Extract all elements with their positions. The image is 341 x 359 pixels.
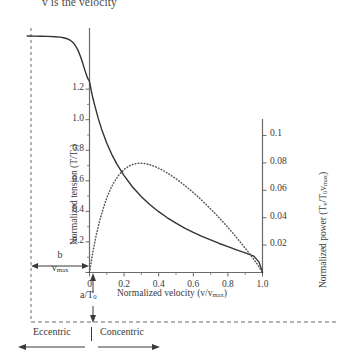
left-tick-label: 1.2 (62, 82, 84, 92)
x-tick-label: 0.8 (216, 279, 240, 289)
b-over-vmax-numerator: b (51, 249, 69, 260)
force-velocity-power-figure: v is the velocity (0, 0, 341, 359)
caption-top-text: v is the velocity (42, 0, 117, 8)
right-tick-label: 0.02 (270, 238, 287, 248)
left-y-axis-label: Normalized tension (T/T0) (69, 144, 79, 245)
concentric-label: Concentric (100, 326, 144, 337)
a-over-t0-label: a/T0 (80, 289, 97, 300)
right-tick-label: 0.06 (270, 183, 287, 193)
b-over-vmax-denominator: vmax (45, 262, 75, 273)
origin-down-arrow (90, 306, 96, 323)
x-tick-label: 0.4 (147, 279, 171, 289)
x-axis-label: Normalized velocity (v/vmax) (117, 288, 227, 298)
x-tick-label: 1.0 (251, 279, 275, 289)
right-tick-label: 0.04 (270, 211, 287, 221)
eccentric-arrow (18, 344, 85, 350)
right-tick-label: 0.1 (270, 128, 282, 138)
x-tick-label: 0.6 (181, 279, 205, 289)
power-curve (90, 163, 263, 272)
x-tick-label: 0.2 (112, 279, 136, 289)
x-tick-label: 0 (78, 279, 102, 289)
right-y-axis-label: Normalized power (Tv/T0vmax) (318, 172, 328, 288)
plot-canvas (0, 0, 341, 359)
right-tick-label: 0.08 (270, 156, 287, 166)
eccentric-label: Eccentric (33, 326, 71, 337)
concentric-arrow (98, 344, 160, 350)
left-tick-label: 1.0 (62, 113, 84, 123)
